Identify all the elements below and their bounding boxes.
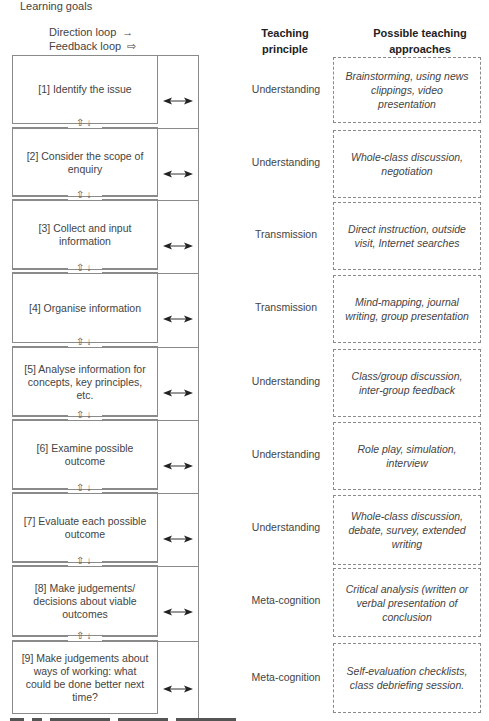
teaching-principle: Transmission xyxy=(240,301,332,313)
teaching-principle: Understanding xyxy=(240,521,332,533)
teaching-approach-box: Whole-class discussion, negotiation xyxy=(333,130,481,198)
teaching-approach-text: Self-evaluation checklists, class debrie… xyxy=(344,664,470,692)
teaching-principle: Meta-cognition xyxy=(240,594,332,606)
step-box: [7] Evaluate each possible outcome xyxy=(12,493,158,563)
feedback-box xyxy=(157,641,199,720)
diagram-title: Learning goals xyxy=(20,0,92,12)
feedback-box xyxy=(157,200,199,273)
teaching-principle: Understanding xyxy=(240,375,332,387)
double-headed-arrow-icon xyxy=(163,461,193,471)
feedback-direction-arrows-icon: ⇧↓ xyxy=(68,630,102,641)
teaching-approach-box: Class/group discussion, inter-group feed… xyxy=(333,349,481,417)
feedback-direction-arrows-icon: ⇧↓ xyxy=(68,189,102,200)
step-box: [8] Make judgements/ decisions about via… xyxy=(12,566,158,636)
legend-direction: Direction loop → xyxy=(49,26,133,38)
step-box: [4] Organise information xyxy=(12,273,158,343)
teaching-approach-text: Whole-class discussion, debate, survey, … xyxy=(344,509,470,551)
legend-feedback: Feedback loop ⇨ xyxy=(49,40,136,53)
teaching-approach-box: Direct instruction, outside visit, Inter… xyxy=(333,202,481,270)
step-box: [3] Collect and input information xyxy=(12,200,158,270)
step-label: [2] Consider the scope of enquiry xyxy=(21,150,149,176)
step-label: [6] Examine possible outcome xyxy=(21,442,149,468)
double-headed-arrow-icon xyxy=(163,314,193,324)
feedback-direction-arrows-icon: ⇧↓ xyxy=(68,117,102,128)
right-arrow-icon: → xyxy=(122,26,133,38)
teaching-principle: Understanding xyxy=(240,83,332,95)
step-box: [1] Identify the issue xyxy=(12,55,158,124)
feedback-direction-arrows-icon: ⇧↓ xyxy=(68,409,102,420)
teaching-approach-text: Role play, simulation, interview xyxy=(344,442,470,470)
teaching-principle: Understanding xyxy=(240,448,332,460)
header-teaching-principle: Teaching principle xyxy=(240,25,330,57)
step-box: [6] Examine possible outcome xyxy=(12,420,158,490)
double-headed-arrow-icon xyxy=(163,388,193,398)
feedback-direction-arrows-icon: ⇧↓ xyxy=(68,336,102,347)
feedback-box xyxy=(157,55,199,128)
step-label: [1] Identify the issue xyxy=(38,83,131,96)
double-headed-arrow-icon xyxy=(163,241,193,251)
teaching-approach-box: Whole-class discussion, debate, survey, … xyxy=(333,495,481,565)
feedback-direction-arrows-icon: ⇧↓ xyxy=(68,262,102,273)
legend-direction-label: Direction loop xyxy=(49,26,116,38)
teaching-approach-text: Brainstorming, using news clippings, vid… xyxy=(344,69,470,111)
feedback-box xyxy=(157,128,199,200)
feedback-box xyxy=(157,493,199,566)
legend-feedback-label: Feedback loop xyxy=(49,40,121,52)
step-box: [2] Consider the scope of enquiry xyxy=(12,128,158,197)
teaching-principle: Understanding xyxy=(240,156,332,168)
step-box: [5] Analyse information for concepts, ke… xyxy=(12,347,158,417)
teaching-approach-box: Critical analysis (written or verbal pre… xyxy=(333,568,481,637)
teaching-approach-box: Role play, simulation, interview xyxy=(333,422,481,490)
caption-clipped xyxy=(10,716,240,721)
teaching-approach-text: Direct instruction, outside visit, Inter… xyxy=(344,222,470,250)
double-headed-arrow-icon xyxy=(163,534,193,544)
feedback-direction-arrows-icon: ⇧↓ xyxy=(68,482,102,493)
step-label: [7] Evaluate each possible outcome xyxy=(21,515,149,541)
hollow-right-arrow-icon: ⇨ xyxy=(127,40,136,52)
double-headed-arrow-icon xyxy=(163,684,193,694)
double-headed-arrow-icon xyxy=(163,169,193,179)
teaching-approach-box: Mind-mapping, journal writing, group pre… xyxy=(333,275,481,343)
double-headed-arrow-icon xyxy=(163,96,193,106)
feedback-box xyxy=(157,566,199,641)
feedback-box xyxy=(157,420,199,493)
teaching-approach-text: Mind-mapping, journal writing, group pre… xyxy=(344,295,470,323)
header-teaching-approaches: Possible teaching approaches xyxy=(350,25,489,57)
teaching-approach-text: Class/group discussion, inter-group feed… xyxy=(344,369,470,397)
teaching-principle: Meta-cognition xyxy=(240,671,332,683)
step-label: [8] Make judgements/ decisions about via… xyxy=(21,582,149,621)
feedback-box xyxy=(157,347,199,420)
teaching-approach-box: Brainstorming, using news clippings, vid… xyxy=(333,57,481,123)
teaching-approach-text: Whole-class discussion, negotiation xyxy=(344,150,470,178)
feedback-box xyxy=(157,273,199,347)
step-label: [3] Collect and input information xyxy=(21,222,149,248)
step-box: [9] Make judgements about ways of workin… xyxy=(12,641,158,714)
feedback-direction-arrows-icon: ⇧↓ xyxy=(68,555,102,566)
step-label: [9] Make judgements about ways of workin… xyxy=(21,652,149,704)
teaching-approach-text: Critical analysis (written or verbal pre… xyxy=(344,582,470,624)
double-headed-arrow-icon xyxy=(163,607,193,617)
teaching-approach-box: Self-evaluation checklists, class debrie… xyxy=(333,643,481,713)
step-label: [4] Organise information xyxy=(29,302,141,315)
teaching-principle: Transmission xyxy=(240,228,332,240)
step-label: [5] Analyse information for concepts, ke… xyxy=(21,363,149,402)
